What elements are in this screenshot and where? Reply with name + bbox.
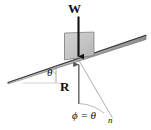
reaction-label: R — [60, 80, 69, 93]
weight-label: W — [68, 2, 81, 15]
inclined-plane-diagram: W R θ ϕ = θ n — [0, 0, 151, 130]
phi-equals-theta-label: ϕ = θ — [72, 110, 96, 121]
incline-angle-label: θ — [47, 67, 52, 78]
normal-direction-label: n — [108, 116, 113, 125]
